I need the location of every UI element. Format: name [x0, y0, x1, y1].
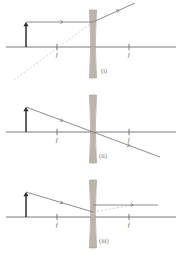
diverging-lens	[89, 10, 96, 78]
panel-label: (ii)	[99, 152, 107, 160]
panel-2: ff(ii)	[6, 95, 176, 163]
focal-label-right: f	[128, 221, 131, 229]
diverging-lens	[89, 180, 96, 248]
object-arrow-head	[23, 22, 28, 26]
focal-label-right: f	[128, 51, 131, 59]
focal-label-left: f	[56, 51, 59, 59]
focal-label-left: f	[56, 221, 59, 229]
panel-label: (iii)	[99, 237, 109, 245]
refracted-diverging-ray	[93, 3, 135, 22]
diverging-lens	[89, 95, 96, 163]
panel-1: ff(i)	[6, 3, 176, 80]
panel-label: (i)	[101, 67, 107, 75]
chief-ray-through-center	[26, 107, 93, 132]
incident-ray-toward-far-focus	[26, 192, 93, 212]
ray-diagram-canvas: ff(i)ff(ii)ff(iii)	[0, 0, 182, 255]
focal-label-left: f	[56, 136, 59, 144]
virtual-ray-extension	[93, 205, 133, 212]
ray-diagram-figure: ff(i)ff(ii)ff(iii)	[0, 0, 182, 255]
panel-3: ff(iii)	[6, 180, 176, 248]
focal-label-right: f	[128, 136, 131, 144]
